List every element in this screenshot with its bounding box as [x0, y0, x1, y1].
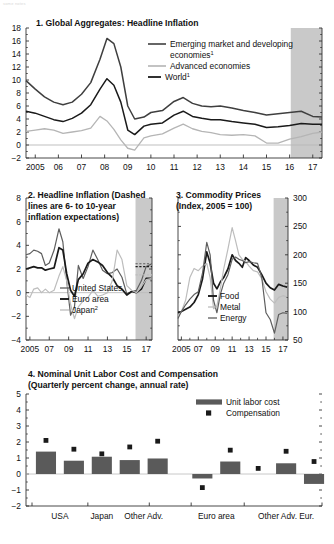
legend-label-emerging-cont: economies1 — [170, 50, 214, 60]
legend-label-energy: Energy — [220, 313, 247, 323]
legend-label-compensation: Compensation — [226, 408, 280, 418]
x-tick-label: 09 — [123, 162, 133, 172]
x-tick-label: 12 — [192, 162, 202, 172]
marker-compensation — [155, 439, 160, 444]
legend-label-euro-area: Euro area — [72, 294, 109, 304]
bar-unit-labor-cost — [92, 457, 112, 474]
x-tick-label: 13 — [103, 344, 113, 354]
x-tick-label: 06 — [54, 162, 64, 172]
x-tick-label: 08 — [100, 162, 110, 172]
panel-3-commodity-prices: 3. Commodity Prices (Index, 2005 = 100) … — [166, 188, 334, 366]
x-tick-label: 17 — [142, 344, 152, 354]
x-group-label: USA — [51, 511, 69, 521]
bar-unit-labor-cost — [120, 460, 140, 474]
marker-compensation — [200, 485, 205, 490]
marker-compensation — [127, 445, 132, 450]
figure-faint-header: some notes — [3, 1, 26, 6]
y-tick-label: 8 — [16, 193, 21, 203]
y-tick-label: 2 — [16, 437, 21, 447]
y-tick-label: 10 — [12, 75, 22, 85]
x-tick-label: 07 — [77, 162, 87, 172]
y-tick-label: −1 — [11, 485, 21, 495]
y-tick-label: 0 — [16, 469, 21, 479]
y-tick-label: 5 — [16, 389, 21, 399]
y-tick-label: 1 — [16, 453, 21, 463]
x-tick-label: 11 — [84, 344, 93, 354]
panel-4-unit-labor-cost: 4. Nominal Unit Labor Cost and Compensat… — [0, 366, 334, 544]
x-tick-label: 17 — [278, 344, 288, 354]
y-tick-label: 14 — [12, 49, 22, 59]
bar-unit-labor-cost — [192, 474, 212, 478]
y-tick-label: −2 — [11, 153, 21, 163]
y-tick-label: 150 — [293, 278, 307, 288]
legend-label-advanced: Advanced economies — [170, 61, 250, 71]
marker-compensation — [312, 459, 317, 464]
marker-compensation — [256, 466, 261, 471]
x-tick-label: 11 — [228, 344, 237, 354]
panel-3-chart: 501001502002503002005070911131517FoodMet… — [166, 188, 334, 366]
y-tick-label: 18 — [12, 23, 22, 33]
x-tick-label: 2005 — [21, 344, 40, 354]
y-tick-label: 250 — [293, 221, 307, 231]
panel-2-headline-inflation: 2. Headline Inflation (Dashed lines are … — [0, 188, 170, 366]
x-tick-label: 09 — [64, 344, 74, 354]
marker-compensation — [99, 451, 104, 456]
panel-4-chart: −2−1012345USAJapanOther Adv.Euro areaOth… — [0, 366, 334, 544]
x-tick-label: 11 — [170, 162, 179, 172]
y-tick-label: 0 — [16, 288, 21, 298]
y-tick-label: 0 — [16, 140, 21, 150]
legend-label-food: Food — [220, 291, 239, 301]
series-line — [26, 79, 322, 135]
y-tick-label: 50 — [293, 335, 303, 345]
x-tick-label: 15 — [122, 344, 132, 354]
forecast-shading — [274, 198, 288, 340]
y-tick-label: 200 — [293, 250, 307, 260]
x-group-label: Other Adv. Eur. — [258, 511, 314, 521]
marker-compensation — [71, 447, 76, 452]
x-tick-label: 13 — [244, 344, 254, 354]
y-tick-label: 2 — [16, 127, 21, 137]
y-tick-label: −2 — [11, 311, 21, 321]
x-group-label: Japan — [90, 511, 113, 521]
marker-compensation — [228, 448, 233, 453]
x-tick-label: 07 — [194, 344, 204, 354]
legend-label-japan: Japan2 — [72, 305, 98, 315]
legend-label-world: World1 — [165, 72, 190, 82]
y-tick-label: 100 — [293, 307, 307, 317]
y-tick-label: 3 — [16, 421, 21, 431]
legend-swatch-unit-labor-cost — [196, 399, 222, 404]
x-group-label: Euro area — [198, 511, 235, 521]
marker-compensation — [44, 438, 49, 443]
x-tick-label: 07 — [45, 344, 55, 354]
x-tick-label: 14 — [239, 162, 249, 172]
x-tick-label: 16 — [285, 162, 295, 172]
x-tick-label: 09 — [211, 344, 221, 354]
y-tick-label: −2 — [11, 501, 21, 511]
panel-1-title: 1. Global Aggregates: Headline Inflation — [36, 18, 199, 29]
x-tick-label: 13 — [216, 162, 226, 172]
legend-label-emerging: Emerging market and developing — [170, 39, 293, 49]
y-tick-label: 12 — [12, 62, 22, 72]
y-tick-label: 4 — [16, 240, 21, 250]
legend-label-united-states: United States — [72, 283, 122, 293]
bar-unit-labor-cost — [64, 461, 84, 474]
x-group-label: Other Adv. — [124, 511, 163, 521]
panel-4-title: 4. Nominal Unit Labor Cost and Compensat… — [28, 369, 218, 391]
x-tick-label: 10 — [146, 162, 156, 172]
panel-1-global-aggregates: 1. Global Aggregates: Headline Inflation… — [0, 16, 334, 188]
x-tick-label: 2005 — [172, 344, 191, 354]
x-tick-label: 17 — [308, 162, 318, 172]
bar-unit-labor-cost — [148, 458, 168, 474]
bar-unit-labor-cost — [276, 463, 296, 474]
y-tick-label: 6 — [16, 217, 21, 227]
legend-swatch-compensation — [206, 410, 211, 415]
y-tick-label: 16 — [12, 36, 22, 46]
x-tick-label: 15 — [262, 162, 272, 172]
y-tick-label: 4 — [16, 114, 21, 124]
panel-2-title: 2. Headline Inflation (Dashed lines are … — [28, 190, 168, 223]
marker-compensation — [284, 449, 289, 454]
imf-inflation-figure: some notes 1. Global Aggregates: Headlin… — [0, 0, 334, 544]
legend-label-metal: Metal — [220, 302, 241, 312]
y-tick-label: 8 — [16, 88, 21, 98]
legend-label-unit-labor-cost: Unit labor cost — [226, 397, 280, 407]
